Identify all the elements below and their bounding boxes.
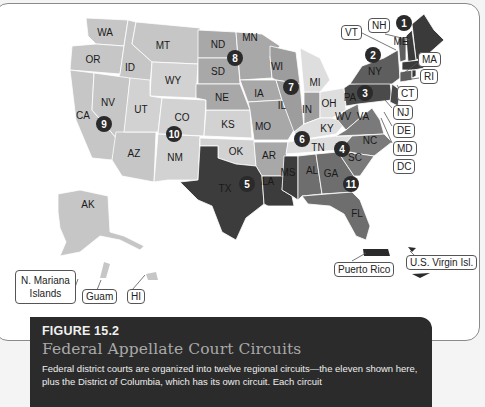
callout-NH: NH: [368, 18, 390, 33]
callout-us-virgin-islands: U.S. Virgin Isl.: [406, 255, 477, 270]
callout-DE: DE: [393, 123, 415, 138]
svg-text:10: 10: [168, 129, 180, 140]
circuit-marker-7: 7: [283, 79, 299, 95]
svg-text:1: 1: [401, 18, 407, 29]
circuit-marker-4: 4: [334, 141, 350, 157]
label-FL: FL: [351, 208, 363, 219]
svg-text:2: 2: [370, 50, 376, 61]
svg-text:4: 4: [339, 144, 345, 155]
svg-text:7: 7: [288, 82, 294, 93]
label-MT: MT: [156, 40, 170, 51]
label-NE: NE: [215, 92, 229, 103]
svg-text:9: 9: [101, 119, 107, 130]
circuit-marker-10: 10: [166, 126, 182, 142]
figure-caption: FIGURE 15.2 Federal Appellate Court Circ…: [30, 317, 432, 407]
label-CO: CO: [175, 112, 190, 123]
territory-puerto-rico: [363, 249, 390, 256]
label-ME: ME: [394, 36, 409, 47]
territory-guam: [100, 262, 110, 278]
callout-MA: MA: [418, 52, 441, 67]
label-CA: CA: [76, 110, 90, 121]
label-MI: MI: [309, 77, 320, 88]
label-NM: NM: [167, 152, 183, 163]
label-TX: TX: [219, 183, 232, 194]
figure-number: FIGURE 15.2: [42, 324, 420, 338]
label-MS: MS: [281, 167, 296, 178]
label-IN: IN: [302, 104, 312, 115]
circuit-marker-9: 9: [96, 116, 112, 132]
label-KY: KY: [320, 123, 334, 134]
circuit-marker-1: 1: [396, 15, 412, 31]
territory-usvi-north: [408, 247, 416, 252]
callout-MD: MD: [393, 141, 417, 156]
callout-guam: Guam: [82, 289, 117, 304]
circuit-marker-11: 11: [343, 176, 359, 192]
label-VA: VA: [357, 111, 370, 122]
label-AR: AR: [262, 150, 276, 161]
svg-text:11: 11: [346, 179, 357, 190]
svg-text:6: 6: [299, 134, 305, 145]
label-OK: OK: [229, 146, 244, 157]
callout-DC: DC: [393, 159, 415, 174]
callout-RI: RI: [420, 69, 438, 84]
figure-title: Federal Appellate Court Circuits: [42, 340, 420, 358]
label-WA: WA: [97, 27, 113, 38]
svg-text:3: 3: [362, 88, 368, 99]
label-LA: LA: [262, 176, 275, 187]
label-SC: SC: [348, 152, 362, 163]
callout-mariana-line1: N. Mariana: [21, 274, 70, 287]
label-OH: OH: [322, 98, 337, 109]
label-WI: WI: [271, 61, 283, 72]
label-IL: IL: [278, 100, 287, 111]
label-KS: KS: [221, 119, 235, 130]
label-AL: AL: [306, 165, 319, 176]
label-NC: NC: [363, 135, 377, 146]
state-HI: [146, 272, 158, 280]
svg-text:5: 5: [244, 179, 250, 190]
label-MN: MN: [242, 32, 258, 43]
label-AK: AK: [81, 199, 95, 210]
circuit-marker-8: 8: [227, 50, 243, 66]
svg-text:8: 8: [232, 53, 238, 64]
callout-n-mariana-islands: N. Mariana Islands: [15, 270, 76, 304]
label-WV: WV: [335, 111, 351, 122]
circuit-marker-5: 5: [239, 176, 255, 192]
label-MO: MO: [255, 121, 271, 132]
circuit-marker-3: 3: [357, 85, 373, 101]
label-ND: ND: [211, 39, 225, 50]
callout-VT: VT: [341, 25, 362, 40]
label-AZ: AZ: [128, 148, 141, 159]
circuit-marker-2: 2: [365, 47, 381, 63]
label-SD: SD: [211, 66, 225, 77]
callout-CT: CT: [397, 86, 418, 101]
callout-mariana-line2: Islands: [21, 287, 70, 300]
label-GA: GA: [324, 168, 339, 179]
state-AK: [58, 190, 144, 256]
label-TN: TN: [311, 142, 324, 153]
figure-description: Federal district courts are organized in…: [42, 362, 420, 388]
callout-HI: HI: [127, 289, 145, 304]
label-ID: ID: [125, 62, 135, 73]
label-IA: IA: [254, 88, 264, 99]
label-PA: PA: [344, 92, 357, 103]
label-UT: UT: [134, 104, 147, 115]
state-RI: [412, 70, 416, 78]
label-NV: NV: [101, 97, 115, 108]
label-OR: OR: [86, 54, 101, 65]
callout-NJ: NJ: [393, 105, 413, 120]
circuit-marker-6: 6: [294, 131, 310, 147]
territory-usvi: [412, 273, 430, 278]
label-NY: NY: [368, 66, 382, 77]
label-WY: WY: [165, 75, 181, 86]
callout-puerto-rico: Puerto Rico: [334, 262, 394, 277]
